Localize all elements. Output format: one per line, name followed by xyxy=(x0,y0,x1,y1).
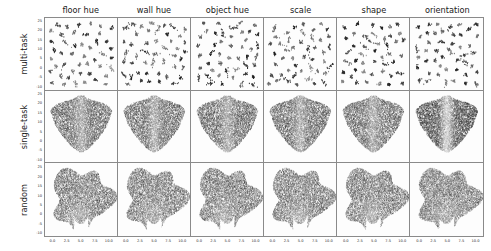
y-tick-label: 20 xyxy=(37,175,42,179)
x-tick-group: 0.02.55.07.510.0 xyxy=(337,238,410,248)
x-tick-label: 0.0 xyxy=(50,238,56,244)
x-tick-label: 2.5 xyxy=(210,238,216,244)
x-tick-label: 0.0 xyxy=(196,238,202,244)
x-tick-label: 7.5 xyxy=(165,238,171,244)
scatter-panel xyxy=(410,18,483,91)
x-tick-label: 7.5 xyxy=(459,238,465,244)
scatter-panel xyxy=(45,163,118,236)
scatter-canvas xyxy=(45,18,117,90)
x-tick-label: 10.0 xyxy=(325,238,333,244)
scatter-panel xyxy=(191,163,264,236)
column-header: object hue xyxy=(191,4,264,17)
scatter-canvas xyxy=(191,163,263,236)
x-tick-group: 0.02.55.07.510.0 xyxy=(264,238,337,248)
y-tick-label: -5 xyxy=(38,148,42,152)
scatter-canvas xyxy=(410,18,483,90)
scatter-panel xyxy=(118,18,191,91)
x-tick-label: 0.0 xyxy=(343,238,349,244)
row-label-text: single-task xyxy=(19,105,29,149)
y-tick-label: 25 xyxy=(37,19,42,23)
row-label: single-task xyxy=(18,90,30,163)
x-axis-tick-row: 0.02.55.07.510.00.02.55.07.510.00.02.55.… xyxy=(44,238,484,248)
x-tick-label: 10.0 xyxy=(105,238,113,244)
x-tick-label: 10.0 xyxy=(178,238,186,244)
y-tick-label: 0 xyxy=(40,139,42,143)
x-tick-label: 7.5 xyxy=(239,238,245,244)
scatter-panel xyxy=(337,163,410,236)
y-tick-label: 25 xyxy=(37,165,42,169)
y-tick-label: 10 xyxy=(37,194,42,198)
scatter-panel xyxy=(118,91,191,164)
y-tick-label: 10 xyxy=(37,120,42,124)
row-label-text: multi-task xyxy=(19,33,29,74)
x-tick-label: 2.5 xyxy=(64,238,70,244)
x-tick-label: 0.0 xyxy=(416,238,422,244)
x-tick-group: 0.02.55.07.510.0 xyxy=(44,238,117,248)
x-tick-label: 7.5 xyxy=(92,238,98,244)
scatter-canvas xyxy=(410,163,483,236)
y-tick-label: -10 xyxy=(36,85,42,89)
y-tick-label: 25 xyxy=(37,92,42,96)
x-tick-label: 0.0 xyxy=(270,238,276,244)
y-tick-label: 5 xyxy=(40,203,42,207)
scatter-panel xyxy=(45,91,118,164)
column-header: floor hue xyxy=(44,4,117,17)
x-tick-label: 7.5 xyxy=(385,238,391,244)
y-tick-label: 15 xyxy=(37,184,42,188)
y-tick-group: 2520151050-5-10 xyxy=(30,17,43,90)
column-header-row: floor huewall hueobject huescaleshapeori… xyxy=(44,4,484,17)
scatter-panel xyxy=(118,163,191,236)
row-label-column: multi-tasksingle-taskrandom xyxy=(18,17,30,237)
scatter-panel xyxy=(191,18,264,91)
panel-grid xyxy=(44,17,484,237)
scatter-grid-figure: floor huewall hueobject huescaleshapeori… xyxy=(0,0,491,251)
y-tick-label: 0 xyxy=(40,212,42,216)
y-tick-label: -5 xyxy=(38,75,42,79)
x-tick-group: 0.02.55.07.510.0 xyxy=(117,238,190,248)
scatter-panel xyxy=(45,18,118,91)
x-tick-label: 5.0 xyxy=(224,238,230,244)
x-tick-label: 10.0 xyxy=(471,238,479,244)
y-tick-label: -10 xyxy=(36,231,42,235)
x-tick-label: 10.0 xyxy=(252,238,260,244)
scatter-canvas xyxy=(264,91,336,163)
x-tick-group: 0.02.55.07.510.0 xyxy=(191,238,264,248)
scatter-panel xyxy=(337,18,410,91)
x-tick-group: 0.02.55.07.510.0 xyxy=(411,238,484,248)
scatter-canvas xyxy=(118,18,190,90)
scatter-panel xyxy=(410,163,483,236)
scatter-canvas xyxy=(191,91,263,163)
scatter-canvas xyxy=(264,163,336,236)
row-label: random xyxy=(18,164,30,237)
scatter-panel xyxy=(410,91,483,164)
column-header: orientation xyxy=(411,4,484,17)
y-tick-label: -5 xyxy=(38,222,42,226)
y-axis-tick-column: 2520151050-5-102520151050-5-102520151050… xyxy=(30,17,43,237)
y-tick-label: 5 xyxy=(40,56,42,60)
scatter-canvas xyxy=(118,91,190,163)
x-tick-label: 10.0 xyxy=(398,238,406,244)
scatter-canvas xyxy=(45,163,117,236)
y-tick-label: 5 xyxy=(40,130,42,134)
y-tick-group: 2520151050-5-10 xyxy=(30,164,43,237)
column-header: scale xyxy=(264,4,337,17)
y-tick-label: 15 xyxy=(37,111,42,115)
scatter-panel xyxy=(264,91,337,164)
x-tick-label: 5.0 xyxy=(78,238,84,244)
scatter-canvas xyxy=(410,91,483,163)
scatter-panel xyxy=(337,91,410,164)
row-label-text: random xyxy=(19,184,29,216)
x-tick-label: 0.0 xyxy=(123,238,129,244)
y-tick-label: 15 xyxy=(37,38,42,42)
row-label: multi-task xyxy=(18,17,30,90)
scatter-panel xyxy=(191,91,264,164)
x-tick-label: 2.5 xyxy=(357,238,363,244)
x-tick-label: 5.0 xyxy=(444,238,450,244)
scatter-canvas xyxy=(337,18,409,90)
x-tick-label: 2.5 xyxy=(284,238,290,244)
scatter-canvas xyxy=(337,91,409,163)
y-tick-label: 20 xyxy=(37,101,42,105)
y-tick-group: 2520151050-5-10 xyxy=(30,90,43,163)
x-tick-label: 5.0 xyxy=(298,238,304,244)
x-tick-label: 5.0 xyxy=(151,238,157,244)
